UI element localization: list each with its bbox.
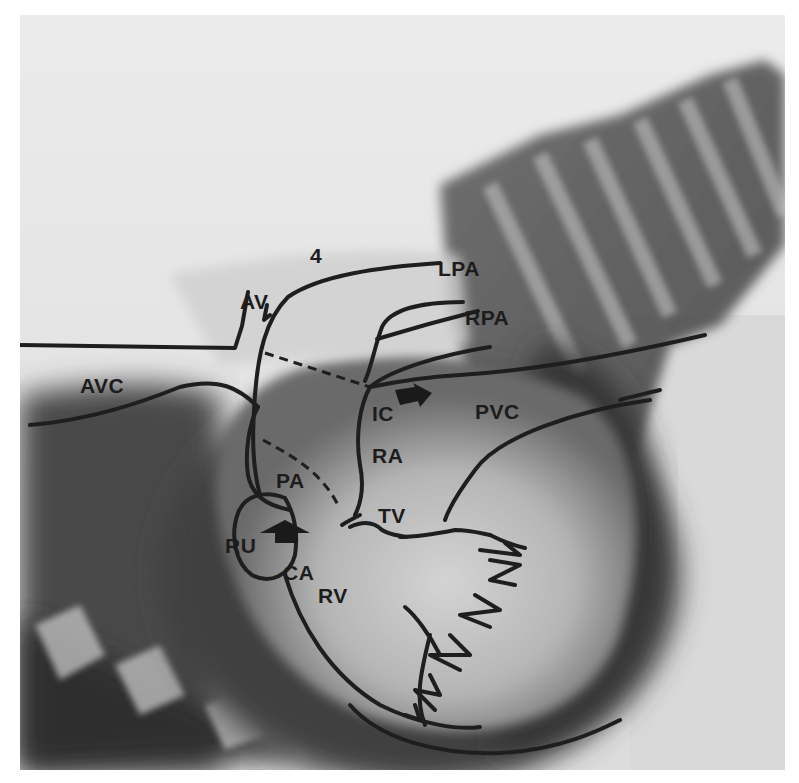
label-ru: RU [225, 535, 256, 556]
label-number: 4 [310, 245, 322, 266]
label-rpa: RPA [465, 307, 509, 328]
label-pvc: PVC [475, 401, 520, 422]
label-pa: PA [276, 470, 305, 491]
label-ic: IC [372, 403, 394, 424]
label-ra: RA [372, 445, 403, 466]
label-tv: TV [378, 505, 406, 526]
label-lpa: LPA [438, 258, 480, 279]
label-avc: AVC [80, 375, 124, 396]
label-rv: RV [318, 585, 348, 606]
label-ca: CA [283, 562, 314, 583]
radiograph-figure: 4 AV LPA RPA AVC IC PVC RA PA TV RU CA R… [20, 15, 785, 770]
radiograph-image [20, 15, 785, 770]
label-av: AV [240, 291, 269, 312]
